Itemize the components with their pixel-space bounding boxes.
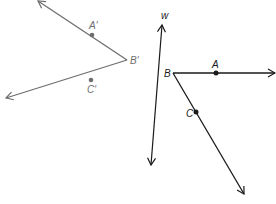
ray-bc xyxy=(173,73,244,194)
original-angle: A B C xyxy=(164,59,275,194)
label-c-prime: C′ xyxy=(87,84,97,95)
point-c xyxy=(194,110,199,115)
label-a-prime: A′ xyxy=(88,20,99,31)
label-a: A xyxy=(211,59,219,70)
mirror-line-w: w xyxy=(151,10,169,165)
label-c: C xyxy=(186,108,194,119)
reflection-diagram: A′ C′ B′ w A B C xyxy=(0,0,276,204)
label-b-prime: B′ xyxy=(130,55,140,66)
point-a xyxy=(214,71,219,76)
point-a-prime xyxy=(90,33,95,38)
image-angle: A′ C′ B′ xyxy=(6,1,140,98)
ray-b-prime-a-prime xyxy=(38,1,127,60)
label-b: B xyxy=(164,68,171,79)
line-w-down xyxy=(151,95,157,165)
line-w-up xyxy=(157,25,163,95)
label-w: w xyxy=(161,10,169,21)
ray-b-prime-c-prime xyxy=(6,60,127,98)
point-c-prime xyxy=(89,78,94,83)
